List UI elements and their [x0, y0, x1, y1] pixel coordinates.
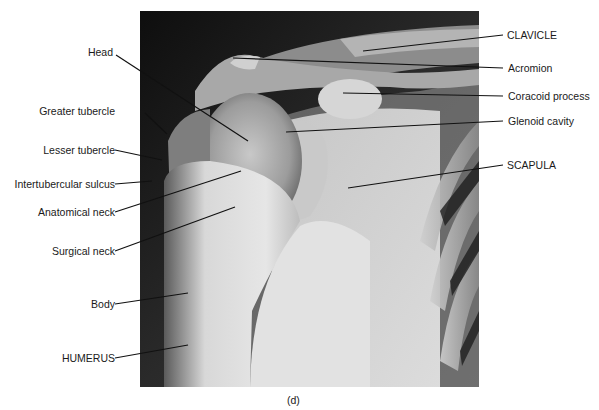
- label-intertubercular-sulcus: Intertubercular sulcus: [15, 178, 115, 190]
- figure-caption: (d): [287, 394, 300, 406]
- label-body: Body: [91, 298, 115, 310]
- label-anatomical-neck: Anatomical neck: [38, 206, 115, 218]
- label-lesser-tubercle: Lesser tubercle: [43, 144, 115, 156]
- label-scapula: SCAPULA: [507, 159, 556, 171]
- label-humerus: HUMERUS: [62, 352, 115, 364]
- label-acromion: Acromion: [508, 62, 552, 74]
- label-glenoid-cavity: Glenoid cavity: [508, 115, 574, 127]
- shoulder-xray-image: [140, 11, 479, 387]
- label-surgical-neck: Surgical neck: [52, 245, 115, 257]
- label-clavicle: CLAVICLE: [507, 29, 557, 41]
- label-greater-tubercle: Greater tubercle: [39, 105, 115, 117]
- label-coracoid-process: Coracoid process: [508, 90, 590, 102]
- label-head: Head: [88, 46, 113, 58]
